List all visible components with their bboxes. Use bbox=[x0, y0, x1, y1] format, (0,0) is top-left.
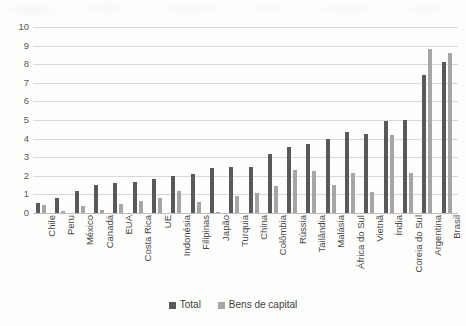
bar-group bbox=[265, 27, 284, 213]
bar-group bbox=[226, 27, 245, 213]
x-axis-tick-label: Malásia bbox=[336, 215, 346, 248]
bar-capital bbox=[100, 210, 104, 213]
bar-capital bbox=[42, 205, 46, 213]
y-axis-tick-label: 2 bbox=[24, 171, 29, 181]
x-axis-tick-label: Tailândia bbox=[317, 215, 327, 253]
bar-group bbox=[284, 27, 303, 213]
x-axis-tick-label: Chile bbox=[47, 215, 57, 237]
bar-group bbox=[168, 27, 187, 213]
bar-capital bbox=[274, 186, 278, 213]
bar-total bbox=[191, 174, 195, 213]
bar-capital bbox=[293, 170, 297, 213]
bar-group bbox=[419, 27, 438, 213]
bar-group bbox=[72, 27, 91, 213]
y-axis-tick-label: 4 bbox=[24, 134, 29, 144]
legend-swatch-icon bbox=[218, 302, 225, 309]
x-axis-tick-label: México bbox=[85, 215, 95, 245]
bar-capital bbox=[390, 135, 394, 213]
bar-capital bbox=[61, 211, 65, 213]
bar-capital bbox=[448, 53, 452, 213]
x-axis-tick-label: Colômbia bbox=[278, 215, 288, 255]
bar-total bbox=[442, 62, 446, 213]
x-axis-tick-label: África do Sul bbox=[356, 215, 366, 269]
bar-total bbox=[75, 191, 79, 213]
x-axis-tick-label: Canadá bbox=[105, 215, 115, 248]
bar-total bbox=[152, 179, 156, 213]
bar-capital bbox=[197, 202, 201, 213]
bar-group bbox=[110, 27, 129, 213]
bar-group bbox=[91, 27, 110, 213]
bar-group bbox=[149, 27, 168, 213]
y-axis-tick-label: 5 bbox=[24, 115, 29, 125]
x-axis-tick-label: Japão bbox=[221, 215, 231, 241]
bars-layer bbox=[33, 27, 458, 213]
bar-group bbox=[303, 27, 322, 213]
bar-group bbox=[400, 27, 419, 213]
bar-total bbox=[306, 144, 310, 213]
bar-capital bbox=[351, 173, 355, 213]
x-axis-tick-label: Vietnã bbox=[375, 215, 385, 242]
bar-capital bbox=[81, 206, 85, 213]
legend-label: Total bbox=[180, 300, 201, 310]
bar-total bbox=[268, 154, 272, 213]
bar-total bbox=[229, 167, 233, 213]
legend-item-bens-de-capital[interactable]: Bens de capital bbox=[218, 300, 297, 310]
y-axis-tick-label: 1 bbox=[24, 190, 29, 200]
legend-item-total[interactable]: Total bbox=[169, 300, 201, 310]
legend-swatch-icon bbox=[169, 302, 176, 309]
y-axis-tick-label: 8 bbox=[24, 59, 29, 69]
bar-total bbox=[384, 121, 388, 213]
bar-group bbox=[323, 27, 342, 213]
x-axis-tick-label: Indonésia bbox=[182, 215, 192, 256]
chart-legend: TotalBens de capital bbox=[0, 300, 466, 310]
bar-group bbox=[33, 27, 52, 213]
bar-capital bbox=[158, 198, 162, 213]
bar-capital bbox=[409, 173, 413, 213]
bar-group bbox=[130, 27, 149, 213]
bar-group bbox=[342, 27, 361, 213]
x-axis: ChilePeruMéxicoCanadáEUACosta RicaUEIndo… bbox=[33, 215, 458, 299]
bar-group bbox=[188, 27, 207, 213]
bar-total bbox=[210, 168, 214, 213]
x-axis-tick-label: China bbox=[259, 215, 269, 240]
bar-total bbox=[249, 167, 253, 214]
x-axis-tick-label: Argentina bbox=[433, 215, 443, 256]
bar-group bbox=[361, 27, 380, 213]
bar-capital bbox=[255, 193, 259, 213]
bar-capital bbox=[177, 191, 181, 213]
x-axis-tick-label: Brasil bbox=[452, 215, 462, 239]
y-axis-tick-label: 3 bbox=[24, 152, 29, 162]
legend-label: Bens de capital bbox=[229, 300, 297, 310]
x-axis-tick-label: Filipinas bbox=[201, 215, 211, 250]
x-axis-tick-label: Turquia bbox=[240, 215, 250, 247]
bar-total bbox=[287, 147, 291, 213]
bar-capital bbox=[428, 49, 432, 213]
bar-total bbox=[171, 176, 175, 213]
bar-total bbox=[345, 132, 349, 213]
x-axis-tick-label: UE bbox=[163, 215, 173, 228]
bar-group bbox=[439, 27, 458, 213]
x-axis-tick-label: Rússia bbox=[298, 215, 308, 244]
bar-capital bbox=[216, 212, 220, 213]
bar-capital bbox=[312, 171, 316, 213]
bar-total bbox=[364, 134, 368, 213]
bar-group bbox=[246, 27, 265, 213]
bar-chart: 012345678910 ChilePeruMéxicoCanadáEUACos… bbox=[0, 0, 466, 326]
bar-total bbox=[133, 182, 137, 213]
bar-capital bbox=[119, 204, 123, 213]
bar-total bbox=[403, 120, 407, 213]
bar-total bbox=[94, 185, 98, 213]
y-axis-tick-label: 10 bbox=[18, 22, 29, 32]
y-axis: 012345678910 bbox=[0, 0, 29, 215]
bar-total bbox=[422, 75, 426, 213]
bar-capital bbox=[235, 196, 239, 213]
y-axis-tick-label: 7 bbox=[24, 78, 29, 88]
x-axis-tick-label: Peru bbox=[66, 215, 76, 235]
bar-total bbox=[326, 139, 330, 213]
x-axis-tick-label: Costa Rica bbox=[143, 215, 153, 261]
x-axis-tick-label: EUA bbox=[124, 215, 134, 235]
bar-capital bbox=[139, 201, 143, 213]
y-axis-tick-label: 6 bbox=[24, 97, 29, 107]
bar-group bbox=[381, 27, 400, 213]
y-axis-tick-label: 0 bbox=[24, 208, 29, 218]
